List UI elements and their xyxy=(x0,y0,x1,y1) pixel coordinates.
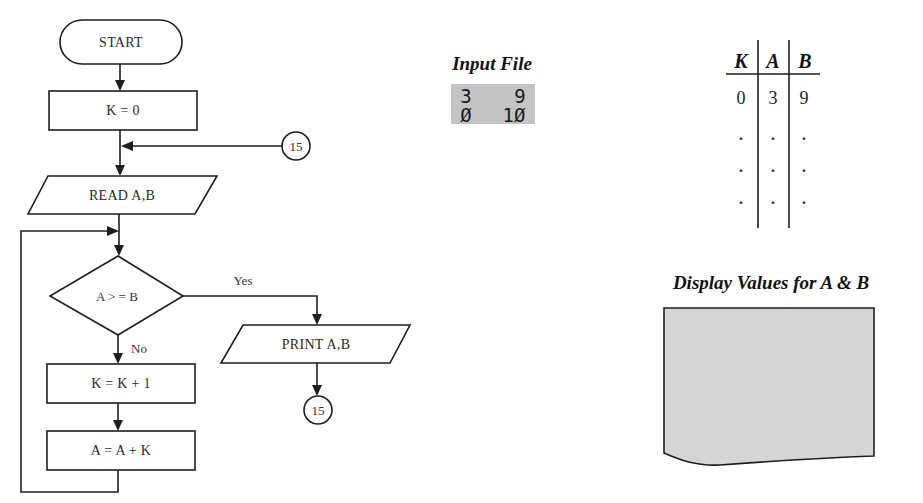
arrow-read-to-decision xyxy=(114,214,124,256)
start-terminal: START xyxy=(60,20,182,64)
increment-k-process-box: K = K + 1 xyxy=(47,364,195,403)
print-label: PRINT A,B xyxy=(282,337,351,352)
table-cell: 9 xyxy=(800,88,809,108)
input-file-panel: Input File 3 9 Ø 1Ø xyxy=(451,53,535,126)
connector-15-outbound: 15 xyxy=(304,396,332,424)
table-cell: . xyxy=(739,190,743,207)
arrow-init-to-read xyxy=(115,130,125,176)
table-cell: . xyxy=(771,190,775,207)
no-label: No xyxy=(131,341,147,356)
table-cell: . xyxy=(739,126,743,143)
input-file-cell: Ø xyxy=(460,104,472,126)
start-label: START xyxy=(99,35,143,50)
input-file-cell: 1Ø xyxy=(503,104,526,126)
display-document-shape xyxy=(664,308,874,465)
arrow-print-to-connector xyxy=(312,363,322,396)
print-output-parallelogram: PRINT A,B xyxy=(221,325,410,363)
table-cell: 0 xyxy=(737,88,746,108)
table-cell: . xyxy=(802,190,806,207)
decision-diamond: A > = B xyxy=(50,256,183,335)
table-cell: 3 xyxy=(769,88,778,108)
update-a-label: A = A + K xyxy=(91,443,152,458)
table-cell: . xyxy=(802,126,806,143)
connector-15-inbound: 15 xyxy=(121,132,310,160)
table-header-b: B xyxy=(797,50,811,72)
no-branch: No xyxy=(113,335,147,364)
yes-label: Yes xyxy=(234,273,253,288)
table-cell: . xyxy=(771,126,775,143)
init-process-box: K = 0 xyxy=(49,91,197,130)
trace-table: K A B 0 3 9 . . . . . . . . . xyxy=(726,40,820,228)
display-title: Display Values for A & B xyxy=(672,272,869,293)
init-label: K = 0 xyxy=(106,103,140,118)
table-header-k: K xyxy=(733,50,749,72)
display-panel: Display Values for A & B xyxy=(664,272,874,465)
table-cell: . xyxy=(739,158,743,175)
decision-label: A > = B xyxy=(96,289,138,304)
flowchart-canvas: START K = 0 15 READ A,B A > = B xyxy=(0,0,923,503)
table-header-a: A xyxy=(764,50,779,72)
increment-k-label: K = K + 1 xyxy=(91,376,151,391)
read-input-parallelogram: READ A,B xyxy=(28,176,217,214)
connector-in-label: 15 xyxy=(290,139,303,154)
read-label: READ A,B xyxy=(89,188,155,203)
input-file-title: Input File xyxy=(451,53,532,74)
update-a-process-box: A = A + K xyxy=(47,431,195,470)
yes-branch: Yes xyxy=(183,273,322,325)
arrow-start-to-init xyxy=(115,64,125,91)
connector-out-label: 15 xyxy=(312,403,325,418)
arrow-increment-to-update xyxy=(113,403,123,431)
table-cell: . xyxy=(802,158,806,175)
table-cell: . xyxy=(771,158,775,175)
